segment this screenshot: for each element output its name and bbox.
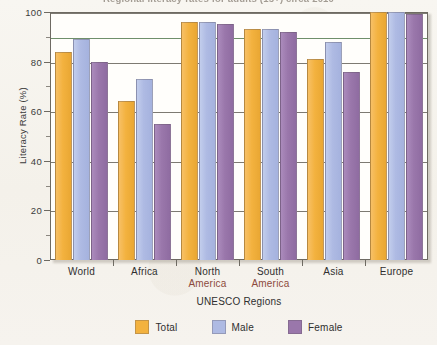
x-axis-title: UNESCO Regions <box>50 296 428 307</box>
x-label-africa: Africa <box>113 266 176 278</box>
bar-world-total[interactable] <box>55 52 72 260</box>
x-label-world: World <box>50 266 113 278</box>
x-label-line1: Africa <box>131 266 158 277</box>
y-tick-label-100: 100 <box>2 7 42 18</box>
x-label-south-america: SouthAmerica <box>239 266 302 289</box>
bar-north-america-total[interactable] <box>181 22 198 260</box>
y-tick-0 <box>44 260 50 261</box>
bar-group-north-america <box>176 12 239 260</box>
bar-europe-total[interactable] <box>370 12 387 260</box>
bar-south-america-female[interactable] <box>280 32 297 260</box>
legend-swatch-total <box>135 320 149 334</box>
bar-group-world <box>50 12 113 260</box>
legend-item-female[interactable]: Female <box>288 320 343 334</box>
x-label-line1: North <box>195 266 220 277</box>
x-label-line2: America <box>176 278 239 290</box>
x-label-line1: World <box>68 266 95 277</box>
x-label-line1: Europe <box>380 266 413 277</box>
bar-africa-female[interactable] <box>154 124 171 260</box>
legend-item-total[interactable]: Total <box>135 320 177 334</box>
bar-group-europe <box>365 12 428 260</box>
bar-south-america-male[interactable] <box>262 29 279 260</box>
x-label-line1: Asia <box>323 266 343 277</box>
x-label-line2: America <box>239 278 302 290</box>
chart-legend: TotalMaleFemale <box>50 320 428 334</box>
bar-europe-female[interactable] <box>406 14 423 260</box>
legend-item-male[interactable]: Male <box>212 320 254 334</box>
chart-title: Regional literacy rates for adults (15+)… <box>0 0 437 4</box>
bars-layer <box>50 12 428 260</box>
legend-swatch-male <box>212 320 226 334</box>
legend-label-total: Total <box>155 322 177 333</box>
x-label-europe: Europe <box>365 266 428 278</box>
legend-label-female: Female <box>308 322 343 333</box>
bar-asia-female[interactable] <box>343 72 360 260</box>
y-axis-title: Literacy Rate (%) <box>17 66 28 186</box>
x-label-north-america: NorthAmerica <box>176 266 239 289</box>
bar-north-america-female[interactable] <box>217 24 234 260</box>
bar-asia-male[interactable] <box>325 42 342 260</box>
bar-europe-male[interactable] <box>388 12 405 260</box>
bar-world-female[interactable] <box>91 62 108 260</box>
bar-africa-male[interactable] <box>136 79 153 260</box>
bar-africa-total[interactable] <box>118 101 135 260</box>
bar-group-africa <box>113 12 176 260</box>
legend-swatch-female <box>288 320 302 334</box>
x-label-line1: South <box>257 266 284 277</box>
bar-group-asia <box>302 12 365 260</box>
bar-group-south-america <box>239 12 302 260</box>
literacy-rate-bar-chart: Regional literacy rates for adults (15+)… <box>0 0 437 345</box>
bar-world-male[interactable] <box>73 39 90 260</box>
y-tick-label-0: 0 <box>2 255 42 266</box>
bar-south-america-total[interactable] <box>244 29 261 260</box>
x-label-asia: Asia <box>302 266 365 278</box>
bar-north-america-male[interactable] <box>199 22 216 260</box>
legend-label-male: Male <box>232 322 254 333</box>
bar-asia-total[interactable] <box>307 59 324 260</box>
y-tick-label-20: 20 <box>2 205 42 216</box>
